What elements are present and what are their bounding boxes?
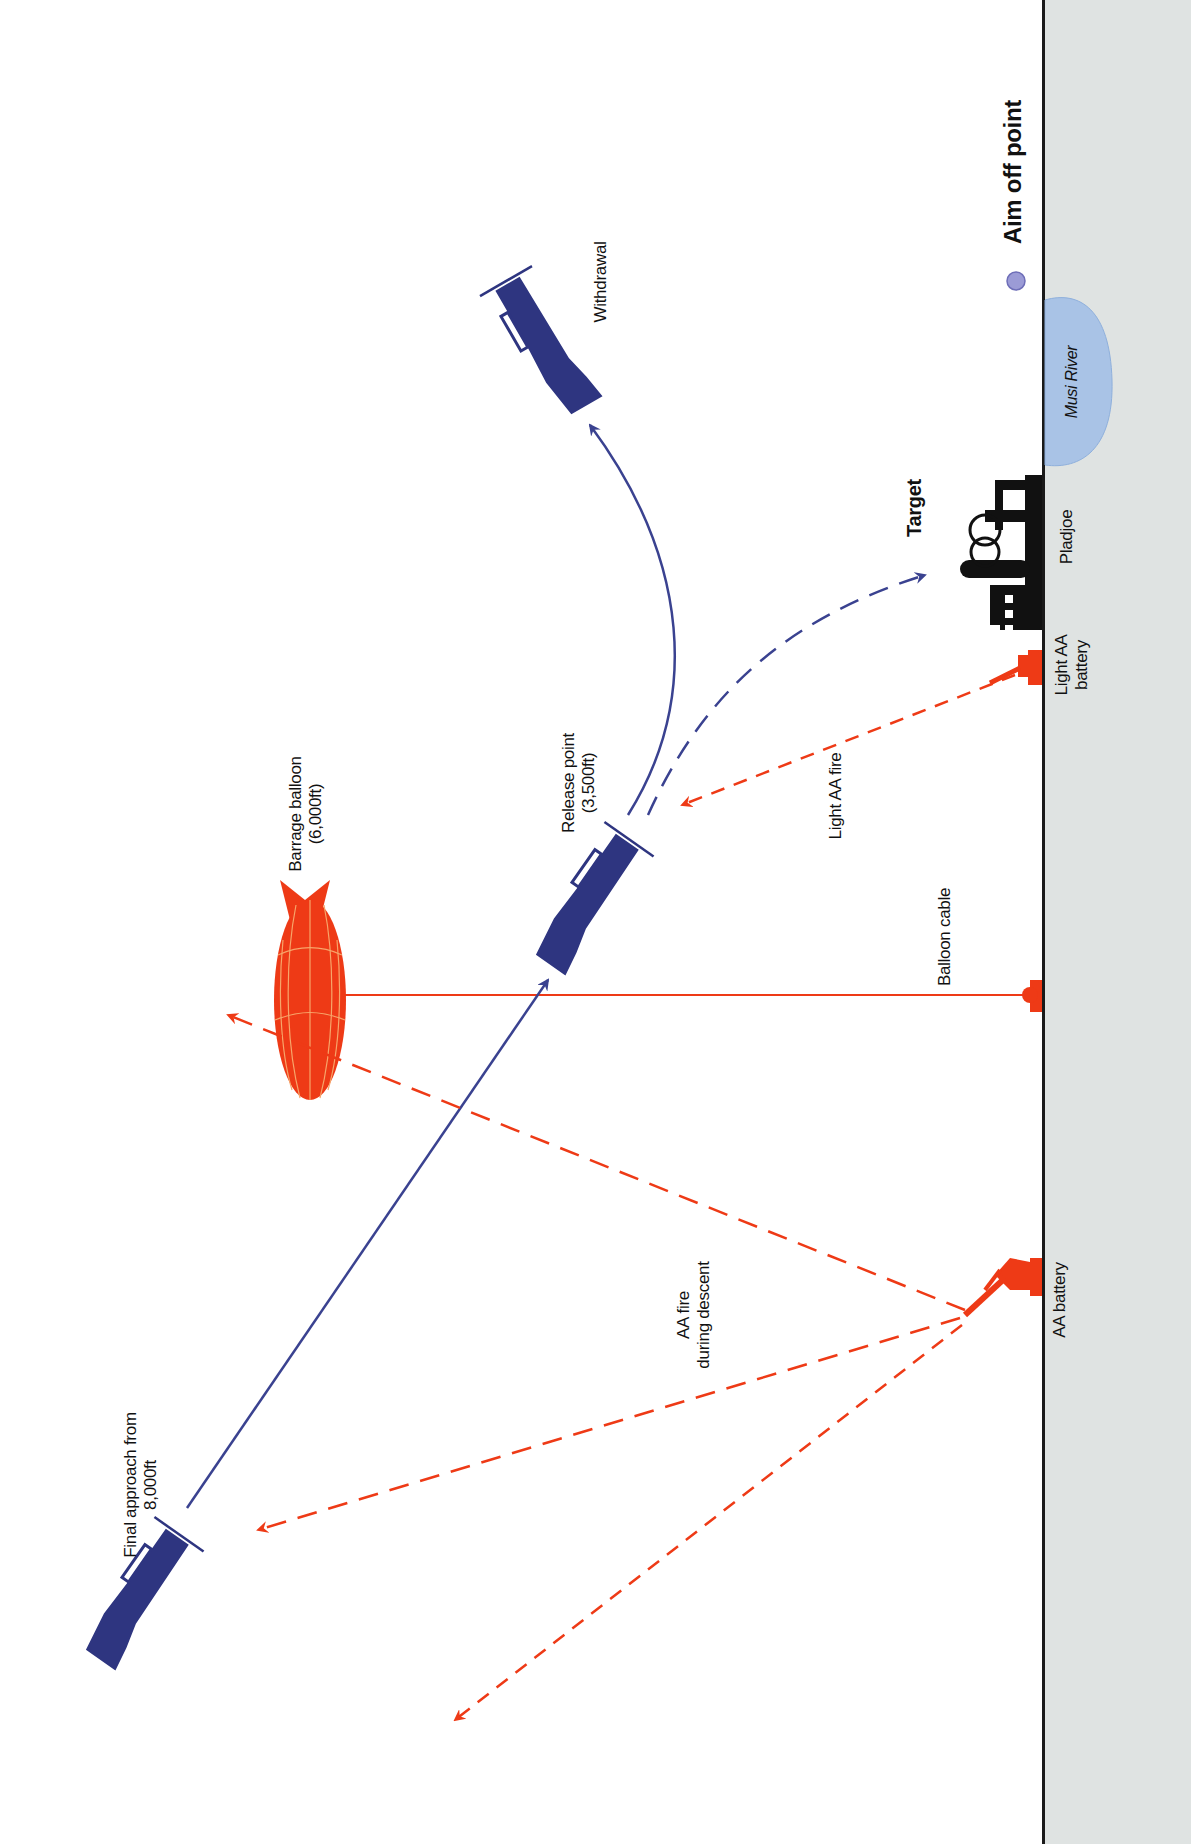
light-aa-battery-label: Light AA battery [1052,635,1092,696]
musi-river-label: Musi River [1062,346,1082,419]
withdrawal-aircraft-icon [480,266,606,424]
pladjoe-label: Pladjoe [1057,510,1077,565]
barrage-balloon-label: Barrage balloon (6,000ft) [286,756,326,872]
balloon-cable-label: Balloon cable [935,888,955,986]
bomb-trajectory [648,575,925,815]
light-aa-fire-label: Light AA fire [826,753,846,840]
release-point-aircraft-icon [520,822,654,978]
aa-fire-path-3 [455,1325,962,1720]
aa-battery-label: AA battery [1050,1262,1070,1337]
barrage-balloon-icon [274,880,346,1100]
dive-path [187,980,548,1508]
target-label: Target [904,479,924,537]
aa-fire-path-2 [258,1318,960,1530]
light-aa-fire-path [682,675,1015,805]
aim-off-point-icon [1007,272,1025,290]
withdrawal-label: Withdrawal [591,241,611,322]
target-refinery-icon [960,475,1042,633]
withdrawal-path [590,425,675,815]
aim-off-point-label: Aim off point [1003,100,1023,244]
aa-fire-during-descent-label: AA fire during descent [674,1261,714,1368]
aa-fire-path-1 [228,1015,965,1310]
release-point-label: Release point (3,500ft) [559,733,599,833]
aa-battery-icon [965,1258,1042,1315]
light-aa-battery-icon [990,650,1042,685]
final-approach-label: Final approach from 8,000ft [121,1412,161,1557]
